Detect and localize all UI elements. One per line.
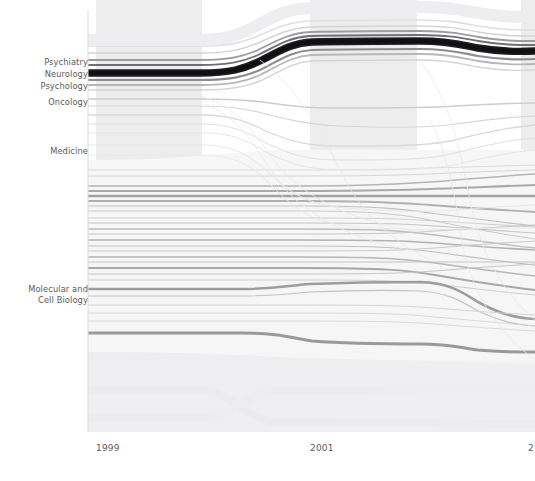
x-tick-2001: 2001 xyxy=(310,443,334,453)
label-neurology: Neurology xyxy=(0,69,88,80)
label-medicine: Medicine xyxy=(0,146,88,157)
label-psychology: Psychology xyxy=(0,81,88,92)
x-tick-2003: 2 xyxy=(528,443,534,453)
label-psychiatry: Psychiatry xyxy=(0,57,88,68)
x-tick-1999: 1999 xyxy=(96,443,120,453)
label-oncology: Oncology xyxy=(0,97,88,108)
label-molecular-and-cell-biology: Molecular and Cell Biology xyxy=(0,284,88,305)
chart-canvas: Psychiatry Neurology Psychology Oncology… xyxy=(0,0,535,481)
bottom-mass xyxy=(88,360,535,432)
